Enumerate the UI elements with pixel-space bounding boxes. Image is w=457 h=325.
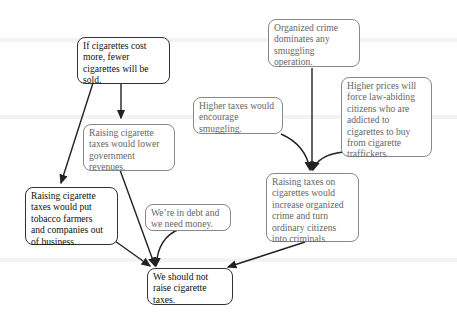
edge-n7-n9 <box>281 134 310 170</box>
node-increase-crime: Raising taxes on cigarettes would increa… <box>266 173 359 242</box>
node-lower-revenues: Raising cigarette taxes would lower gove… <box>83 124 175 171</box>
node-debt-need-money: We’re in debt and we need money. <box>145 204 231 231</box>
node-conclusion-no-tax-raise: We should not raise cigarette taxes. <box>147 268 233 305</box>
node-organized-crime-smuggling: Organized crime dominates any smuggling … <box>268 19 360 67</box>
node-farmers-out-of-business: Raising cigarette taxes would put tobacc… <box>25 187 118 245</box>
node-encourage-smuggling: Higher taxes would encourage smuggling. <box>193 97 283 134</box>
edge-n9-n5 <box>228 242 305 267</box>
edge-n4-n5 <box>156 229 180 266</box>
edge-n8-n9 <box>313 152 343 170</box>
node-cost-fewer-sold: If cigarettes cost more, fewer cigarette… <box>77 37 170 84</box>
node-force-buy-traffickers: Higher prices will force law-abiding cit… <box>341 77 432 157</box>
edge-n3-n5 <box>115 241 150 266</box>
